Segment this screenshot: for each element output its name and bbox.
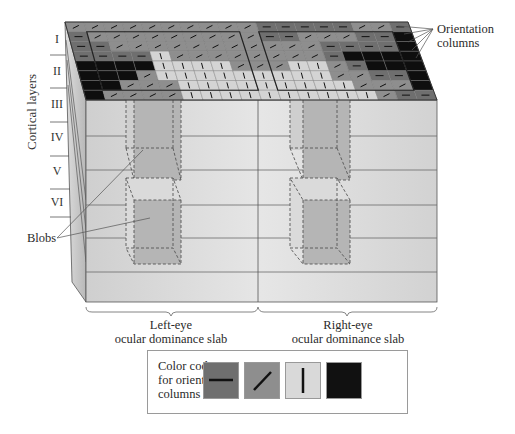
orientation-label-line2: columns [437, 36, 494, 50]
layer-label-II: II [42, 64, 72, 79]
cortical-layers-label: Cortical layers [24, 74, 40, 150]
top-surface-orientation-grid [65, 22, 437, 100]
blob-left-lower [126, 178, 181, 264]
swatch-horizontal [203, 362, 239, 399]
orientation-columns-label: Orientation columns [437, 22, 494, 50]
layer-label-VI: VI [42, 195, 72, 210]
right-slab-line2: ocular dominance slab [287, 332, 409, 346]
horizontal-bar-icon [204, 363, 238, 398]
right-eye-slab-label: Right-eye ocular dominance slab [287, 318, 409, 346]
layer-label-V: V [42, 164, 72, 179]
left-eye-slab-label: Left-eye ocular dominance slab [110, 318, 232, 346]
layer-label-IV: IV [42, 130, 72, 145]
layer-label-III: III [42, 97, 72, 112]
left-slab-line1: Left-eye [110, 318, 232, 332]
vertical-bar-icon [286, 363, 320, 398]
slab-braces [86, 307, 437, 316]
left-slab-line2: ocular dominance slab [110, 332, 232, 346]
swatch-other [326, 362, 362, 399]
color-code-legend: Color code for orientation columns [147, 350, 408, 414]
swatch-vertical [285, 362, 321, 399]
blobs-label: Blobs [27, 231, 56, 245]
layer-label-I: I [42, 32, 72, 47]
swatch-oblique [244, 362, 280, 399]
orientation-label-line1: Orientation [437, 22, 494, 36]
right-slab-line1: Right-eye [287, 318, 409, 332]
diagonal-bar-icon [245, 363, 279, 398]
blob-left-upper [126, 100, 181, 180]
